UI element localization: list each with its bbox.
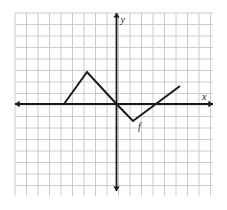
x-axis-label: x <box>201 91 207 102</box>
coordinate-graph-figure: f x y <box>0 0 227 210</box>
y-axis-label: y <box>120 14 126 25</box>
graph-canvas: f x y <box>0 0 227 210</box>
